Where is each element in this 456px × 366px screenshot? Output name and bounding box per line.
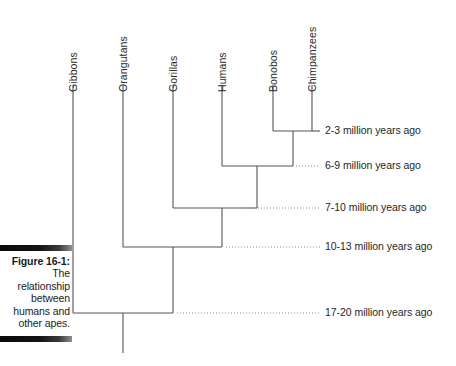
time-label-6-9: 6-9 million years ago <box>325 159 421 171</box>
time-label-7-10: 7-10 million years ago <box>325 201 427 213</box>
taxon-label-humans: Humans <box>216 52 228 92</box>
taxon-label-orangutans: Orangutans <box>117 36 129 92</box>
time-label-2-3: 2-3 million years ago <box>325 124 421 136</box>
taxon-label-chimpanzees: Chimpanzees <box>306 27 318 92</box>
figure-page: Figure 16-1: The relationship between hu… <box>0 0 456 366</box>
time-label-17-20: 17-20 million years ago <box>325 306 432 318</box>
time-label-10-13: 10-13 million years ago <box>325 240 432 252</box>
taxon-label-bonobos: Bonobos <box>267 50 279 92</box>
taxon-label-gorillas: Gorillas <box>167 56 179 92</box>
taxon-label-gibbons: Gibbons <box>67 52 79 92</box>
